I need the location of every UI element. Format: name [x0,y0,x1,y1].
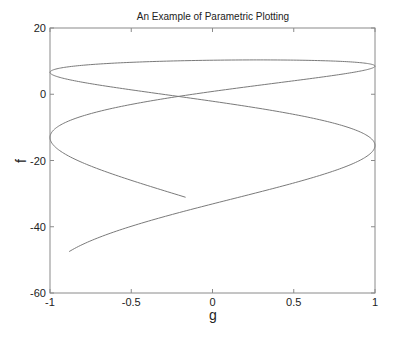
parametric-curve [50,60,375,252]
chart: An Example of Parametric Plotting -1-0.5… [0,0,396,338]
y-tick-label: -40 [30,221,46,233]
x-axis-label: g [209,307,217,323]
x-tick-label: -0.5 [122,296,141,308]
y-tick-label: 20 [34,22,46,34]
y-axis-label: f [13,159,29,163]
y-tick-label: -60 [30,287,46,299]
y-axis: -60-40-20020 [30,22,375,299]
plot-area [50,28,375,293]
chart-title: An Example of Parametric Plotting [137,11,289,22]
x-tick-label: -1 [45,296,55,308]
x-tick-label: 1 [372,296,378,308]
x-tick-label: 0.5 [286,296,301,308]
y-tick-label: 0 [40,88,46,100]
y-tick-label: -20 [30,155,46,167]
